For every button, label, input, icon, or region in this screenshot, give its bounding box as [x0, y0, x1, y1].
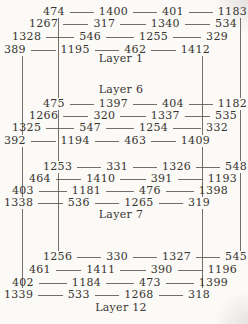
- horizontal-bond-line: [159, 203, 184, 204]
- horizontal-bond-line: [106, 128, 134, 129]
- horizontal-bond-line: [120, 270, 145, 271]
- horizontal-bond-line: [166, 283, 194, 284]
- horizontal-bond-line: [133, 167, 157, 168]
- horizontal-bond-line: [189, 12, 213, 13]
- lattice-site-value: 1338: [4, 197, 33, 209]
- lattice-layers-figure: 4741400401118312673171340534132854612553…: [0, 0, 248, 324]
- lattice-site-value: 1328: [12, 31, 41, 43]
- horizontal-bond-line: [133, 104, 157, 105]
- lattice-site-value: 392: [4, 135, 26, 147]
- lattice-site-value: 547: [79, 122, 101, 134]
- horizontal-bond-line: [189, 104, 213, 105]
- horizontal-bond-line: [173, 37, 201, 38]
- lattice-site-value: 389: [4, 44, 26, 56]
- horizontal-bond-line: [173, 128, 201, 129]
- back-left-column-bond: [58, 18, 59, 98]
- horizontal-bond-line: [106, 37, 134, 38]
- horizontal-bond-line: [151, 141, 176, 142]
- lattice-site-value: 329: [206, 31, 228, 43]
- horizontal-bond-line: [159, 295, 184, 296]
- lattice-site-value: 461: [29, 264, 51, 276]
- horizontal-bond-line: [63, 116, 88, 117]
- horizontal-bond-line: [95, 50, 120, 51]
- lattice-site-value: 1256: [43, 251, 72, 263]
- back-right-column-bond: [240, 173, 241, 251]
- lattice-row: 39211944631409: [4, 135, 210, 147]
- lattice-site-value: 546: [79, 31, 101, 43]
- horizontal-bond-line: [63, 24, 88, 25]
- horizontal-bond-line: [196, 257, 220, 258]
- lattice-row: 46114113901196: [29, 264, 237, 276]
- horizontal-bond-line: [120, 179, 145, 180]
- horizontal-bond-line: [46, 128, 74, 129]
- lattice-site-value: 1340: [151, 18, 180, 30]
- horizontal-bond-line: [95, 203, 120, 204]
- horizontal-bond-line: [46, 37, 74, 38]
- horizontal-bond-line: [39, 283, 67, 284]
- horizontal-bond-line: [77, 257, 101, 258]
- lattice-site-value: 318: [188, 289, 210, 301]
- lattice-site-value: 390: [151, 264, 173, 276]
- horizontal-bond-line: [133, 257, 157, 258]
- lattice-site-value: 1325: [12, 122, 41, 134]
- lattice-site-value: 534: [215, 18, 237, 30]
- lattice-row: 12673171340534: [29, 18, 237, 30]
- lattice-site-value: 1194: [61, 135, 90, 147]
- horizontal-bond-line: [70, 104, 94, 105]
- horizontal-bond-line: [106, 283, 134, 284]
- lattice-site-value: 317: [93, 18, 115, 30]
- lattice-site-value: 533: [68, 289, 90, 301]
- lattice-site-value: 330: [106, 251, 128, 263]
- layer-label: Layer 1: [60, 52, 182, 65]
- horizontal-bond-line: [38, 203, 63, 204]
- lattice-row: 12563301327545: [43, 251, 247, 263]
- horizontal-bond-line: [120, 116, 145, 117]
- horizontal-bond-line: [31, 50, 56, 51]
- layer-label: Layer 6: [60, 83, 182, 96]
- horizontal-bond-line: [120, 24, 145, 25]
- horizontal-bond-line: [185, 116, 210, 117]
- horizontal-bond-line: [31, 141, 56, 142]
- horizontal-bond-line: [178, 179, 203, 180]
- lattice-row: 13255471254332: [12, 122, 228, 134]
- layer-label: Layer 12: [60, 301, 182, 314]
- horizontal-bond-line: [95, 295, 120, 296]
- horizontal-bond-line: [77, 167, 101, 168]
- horizontal-bond-line: [151, 50, 176, 51]
- lattice-site-value: 463: [124, 135, 146, 147]
- back-right-column-bond: [240, 110, 241, 161]
- lattice-row: 13285461255329: [12, 31, 228, 43]
- horizontal-bond-line: [56, 179, 81, 180]
- lattice-site-value: 1339: [4, 289, 33, 301]
- horizontal-bond-line: [38, 295, 63, 296]
- lattice-site-value: 332: [206, 122, 228, 134]
- horizontal-bond-line: [133, 12, 157, 13]
- lattice-site-value: 1267: [29, 18, 58, 30]
- lattice-site-value: 1327: [162, 251, 191, 263]
- horizontal-bond-line: [70, 12, 94, 13]
- lattice-site-value: 1412: [181, 44, 210, 56]
- horizontal-bond-line: [185, 24, 210, 25]
- back-right-column-bond: [240, 18, 241, 98]
- layer-label: Layer 7: [60, 208, 182, 221]
- lattice-site-value: 1255: [139, 31, 168, 43]
- lattice-site-value: 545: [225, 251, 247, 263]
- lattice-site-value: 1268: [124, 289, 153, 301]
- horizontal-bond-line: [166, 191, 194, 192]
- lattice-site-value: 1411: [86, 264, 115, 276]
- lattice-row: 13395331268318: [4, 289, 210, 301]
- horizontal-bond-line: [95, 141, 120, 142]
- lattice-site-value: 1254: [139, 122, 168, 134]
- horizontal-bond-line: [106, 191, 134, 192]
- lattice-site-value: 319: [188, 197, 210, 209]
- lattice-site-value: 1409: [181, 135, 210, 147]
- horizontal-bond-line: [178, 270, 203, 271]
- lattice-site-value: 1196: [208, 264, 237, 276]
- horizontal-bond-line: [56, 270, 81, 271]
- horizontal-bond-line: [39, 191, 67, 192]
- horizontal-bond-line: [196, 167, 220, 168]
